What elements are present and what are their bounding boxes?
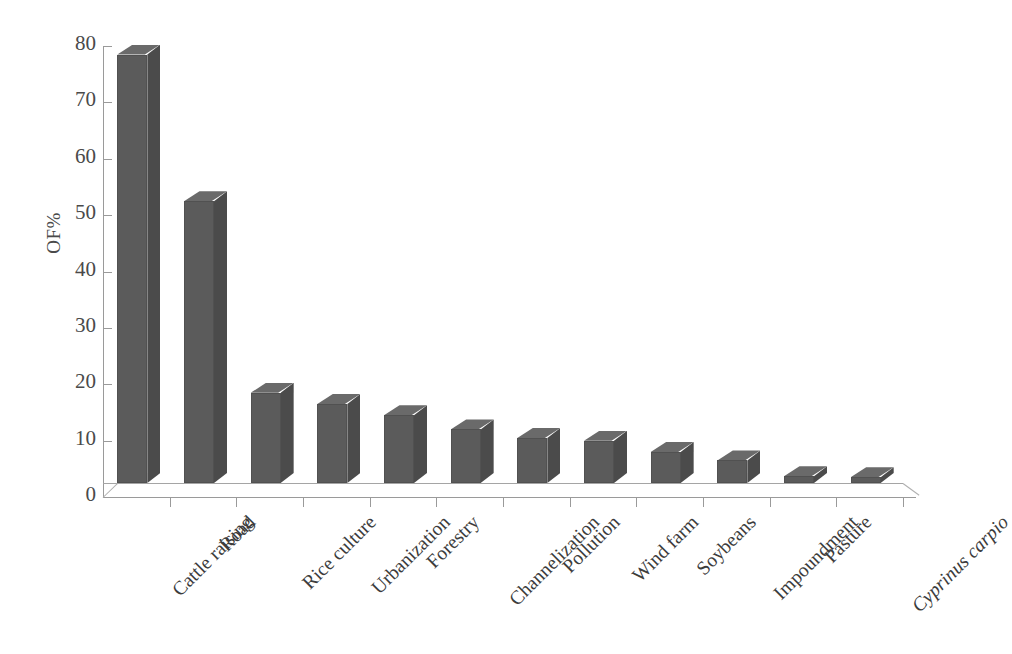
bar xyxy=(317,394,362,487)
bar xyxy=(517,428,562,487)
bar xyxy=(117,45,162,487)
bar-side-face xyxy=(481,419,494,483)
bar-front-face xyxy=(584,441,614,483)
bar xyxy=(384,405,429,487)
bar xyxy=(251,383,296,487)
bar-side-face xyxy=(614,431,627,483)
bar-front-face xyxy=(184,201,214,483)
bar-front-face xyxy=(651,452,681,483)
bar xyxy=(451,419,496,487)
bar-front-face xyxy=(717,460,747,483)
bar-side-face xyxy=(414,405,427,483)
bar-front-face xyxy=(117,55,147,483)
bar-front-face xyxy=(251,393,281,483)
bar xyxy=(717,450,762,487)
bar-front-face xyxy=(851,477,881,483)
bar-side-face xyxy=(147,45,160,483)
bar-side-face xyxy=(547,428,560,483)
bar-front-face xyxy=(517,438,547,483)
bar-side-face xyxy=(347,394,360,483)
bar-front-face xyxy=(784,476,814,483)
bar xyxy=(651,442,696,487)
bar xyxy=(184,191,229,487)
bar-front-face xyxy=(451,429,481,483)
bar xyxy=(851,467,896,487)
bar-side-face xyxy=(214,191,227,483)
bar-front-face xyxy=(317,404,347,483)
bar xyxy=(584,431,629,487)
bar xyxy=(784,466,829,487)
bar-front-face xyxy=(384,415,414,483)
bar-side-face xyxy=(281,383,294,483)
